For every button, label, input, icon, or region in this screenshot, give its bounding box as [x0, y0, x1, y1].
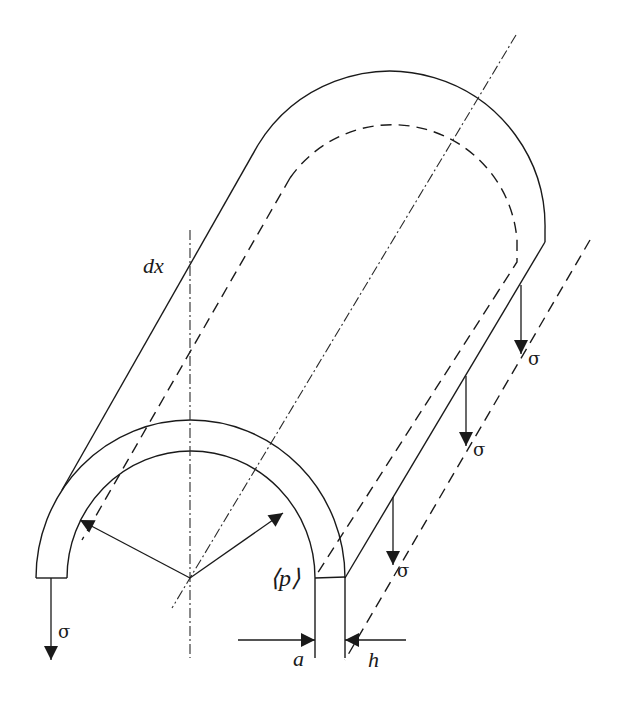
left-inner-generator [82, 178, 290, 540]
labels: dx ⟨p⟩ a h σ σ σ σ [58, 253, 540, 672]
label-sigma-3: σ [397, 560, 409, 581]
label-h: h [368, 647, 379, 672]
right-generator [345, 242, 545, 578]
cylinder-body [62, 71, 590, 660]
back-inner-right [499, 240, 517, 290]
front-inner-arc [67, 451, 315, 578]
front-right-bottom [315, 577, 345, 578]
label-dx: dx [143, 253, 164, 278]
left-generator [62, 145, 258, 490]
right-inner-generator [315, 290, 499, 577]
label-sigma-1: σ [528, 348, 540, 369]
radius-arrow-left [80, 520, 190, 578]
label-pressure: ⟨p⟩ [270, 565, 301, 591]
label-sigma-front: σ [58, 621, 70, 642]
half-cylinder-diagram: dx ⟨p⟩ a h σ σ σ σ [0, 0, 624, 701]
back-outer-arc [258, 71, 545, 230]
stress-line [345, 240, 590, 660]
label-a: a [293, 646, 304, 671]
label-sigma-2: σ [473, 439, 485, 460]
axis-centerline [172, 35, 516, 608]
radius-arrows [80, 513, 283, 578]
